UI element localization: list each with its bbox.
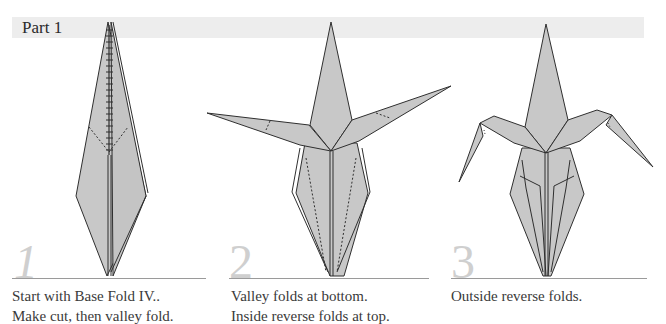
caption-line: Inside reverse folds at top. <box>231 306 390 324</box>
caption-line: Outside reverse folds. <box>451 286 582 306</box>
caption-line: Make cut, then valley fold. <box>12 306 174 324</box>
step-3-rule <box>451 278 647 279</box>
step-1-caption: Start with Base Fold IV.. Make cut, then… <box>12 286 174 324</box>
origami-diagrams <box>0 0 666 324</box>
caption-line: Start with Base Fold IV.. <box>12 286 174 306</box>
step-1-diagram <box>76 22 148 276</box>
step-2-caption: Valley folds at bottom. Inside reverse f… <box>231 286 390 324</box>
step-3-diagram <box>459 24 653 276</box>
step-2-rule <box>229 278 429 279</box>
step-3-caption: Outside reverse folds. <box>451 286 582 306</box>
step-1-rule <box>12 278 206 279</box>
caption-line: Valley folds at bottom. <box>231 286 390 306</box>
